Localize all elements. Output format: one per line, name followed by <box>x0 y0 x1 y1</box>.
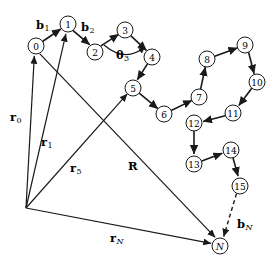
bond-5-6 <box>139 93 158 109</box>
label-theta3: θ3 <box>116 50 129 63</box>
node-7-label: 7 <box>196 93 202 103</box>
label-b1: b1 <box>36 20 50 33</box>
node-14[interactable]: 14 <box>223 142 239 158</box>
node-group: 0 1 2 3 4 5 6 <box>28 16 265 254</box>
label-rN: rN <box>110 233 123 246</box>
bond-14-15 <box>233 158 238 176</box>
node-6[interactable]: 6 <box>156 106 172 122</box>
node-5-label: 5 <box>130 84 136 94</box>
node-0[interactable]: 0 <box>28 38 44 54</box>
label-bN: bN <box>237 219 252 232</box>
node-6-label: 6 <box>161 110 167 120</box>
node-9[interactable]: 9 <box>237 37 253 53</box>
node-1[interactable]: 1 <box>60 16 76 32</box>
node-15[interactable]: 15 <box>232 178 248 194</box>
node-11-label: 11 <box>227 109 238 119</box>
node-4[interactable]: 4 <box>144 49 160 65</box>
bond-13-14 <box>202 153 223 161</box>
bond-11-12 <box>203 116 225 122</box>
bond-15-N <box>224 194 237 237</box>
node-12[interactable]: 12 <box>186 115 202 131</box>
node-14-label: 14 <box>225 146 237 156</box>
node-4-label: 4 <box>149 53 155 63</box>
bond-9-10 <box>249 52 255 73</box>
node-8[interactable]: 8 <box>199 51 215 67</box>
label-r5: r5 <box>70 163 82 176</box>
bond-7-8 <box>201 67 206 89</box>
label-r0: r0 <box>10 112 22 125</box>
node-10[interactable]: 10 <box>249 74 265 90</box>
node-8-label: 8 <box>204 55 210 65</box>
node-3[interactable]: 3 <box>117 22 133 38</box>
node-3-label: 3 <box>122 26 128 36</box>
vector-r5-line <box>26 94 127 208</box>
vector-r0-line <box>26 56 34 208</box>
label-r1: r1 <box>41 137 53 150</box>
bond-6-7 <box>171 100 192 110</box>
label-b2: b2 <box>81 22 95 35</box>
bond-2-3 <box>101 34 119 46</box>
node-0-label: 0 <box>33 42 39 52</box>
bond-10-11 <box>239 88 252 105</box>
node-5[interactable]: 5 <box>125 80 141 96</box>
node-2-label: 2 <box>92 48 98 58</box>
node-12-label: 12 <box>188 119 199 129</box>
node-2[interactable]: 2 <box>87 44 103 60</box>
node-N[interactable]: N <box>212 238 228 254</box>
vector-R-line <box>40 54 215 238</box>
node-15-label: 15 <box>234 182 246 192</box>
label-R: R <box>128 161 138 173</box>
bond-4-5 <box>137 64 147 80</box>
node-1-label: 1 <box>65 20 71 30</box>
node-13-label: 13 <box>188 160 200 170</box>
node-13[interactable]: 13 <box>186 156 202 172</box>
node-11[interactable]: 11 <box>225 105 241 121</box>
node-7[interactable]: 7 <box>191 89 207 105</box>
node-9-label: 9 <box>242 41 248 51</box>
vector-group <box>26 34 215 244</box>
node-N-label: N <box>215 242 225 252</box>
node-10-label: 10 <box>251 78 263 88</box>
polymer-chain-diagram: 0 1 2 3 4 5 6 <box>0 0 280 275</box>
bond-8-9 <box>215 48 238 56</box>
